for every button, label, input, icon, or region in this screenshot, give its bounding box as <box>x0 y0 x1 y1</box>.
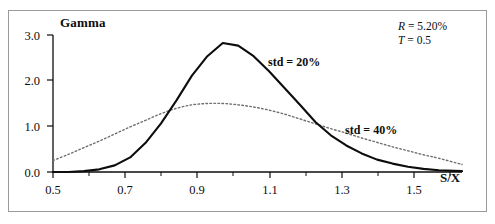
parameter-annotations: R = 5.20% T = 0.5 <box>398 19 447 47</box>
annotation-rate-value: 5.20% <box>417 20 447 32</box>
annotation-maturity-value: 0.5 <box>417 34 431 46</box>
y-axis-ticks <box>47 35 53 172</box>
series-line-std-40 <box>53 103 462 164</box>
y-axis-title: Gamma <box>60 16 106 29</box>
annotation-rate: R = 5.20% <box>398 19 447 33</box>
figure-container: Gamma S/X 3.0 2.0 1.0 0.0 0.5 0.7 0.9 1.… <box>0 0 495 224</box>
x-tick-label-2: 0.9 <box>179 184 215 197</box>
y-tick-label-1: 1.0 <box>12 121 40 134</box>
x-axis-title: S/X <box>440 171 460 184</box>
annotation-maturity-symbol: T <box>398 34 404 46</box>
x-tick-label-5: 1.5 <box>396 184 432 197</box>
x-tick-label-4: 1.3 <box>324 184 360 197</box>
y-tick-label-0: 0.0 <box>12 167 40 180</box>
annotation-maturity: T = 0.5 <box>398 33 447 47</box>
annotation-rate-symbol: R <box>398 20 405 32</box>
x-tick-label-0: 0.5 <box>35 184 71 197</box>
series-label-std-20: std = 20% <box>268 56 320 68</box>
x-tick-label-1: 0.7 <box>107 184 143 197</box>
annotation-rate-equals: = <box>408 20 415 32</box>
series-label-std-40: std = 40% <box>345 124 397 136</box>
annotation-maturity-equals: = <box>407 34 414 46</box>
y-tick-label-3: 3.0 <box>12 30 40 43</box>
y-tick-label-2: 2.0 <box>12 75 40 88</box>
x-tick-label-3: 1.1 <box>252 184 288 197</box>
